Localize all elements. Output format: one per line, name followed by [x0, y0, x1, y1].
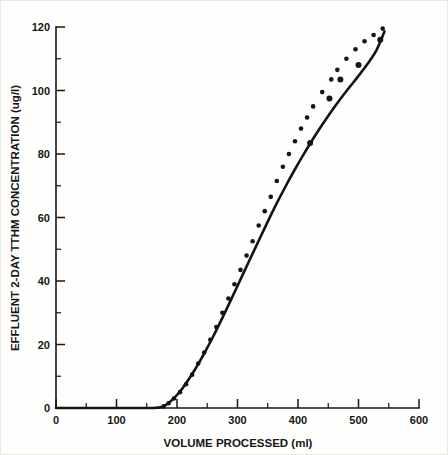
fitted-breakthrough-curve: [56, 31, 385, 408]
data-point: [377, 37, 383, 43]
data-point: [371, 33, 376, 38]
x-tick-label: 500: [349, 414, 367, 426]
data-point: [380, 26, 385, 31]
data-point: [329, 77, 334, 82]
x-axis-major-ticks: [56, 399, 419, 408]
data-point: [190, 372, 195, 377]
y-tick-label: 20: [38, 339, 50, 351]
x-tick-label: 100: [107, 414, 125, 426]
y-tick-label: 40: [38, 275, 50, 287]
chart-page: 120 100 80 60 40 20 0 0 100 200 300 400 …: [0, 0, 448, 455]
x-tick-label: 0: [53, 414, 59, 426]
data-point: [307, 140, 313, 146]
data-point: [202, 350, 207, 355]
data-point: [220, 310, 225, 315]
data-point: [262, 209, 267, 214]
data-point: [244, 253, 249, 258]
data-point: [196, 361, 201, 366]
data-point: [281, 164, 286, 169]
x-axis-title: VOLUME PROCESSED (ml): [164, 437, 313, 449]
y-tick-label: 100: [32, 85, 50, 97]
data-point: [326, 95, 332, 101]
tthm-breakthrough-chart: 120 100 80 60 40 20 0 0 100 200 300 400 …: [0, 0, 448, 455]
x-tick-label: 400: [289, 414, 307, 426]
x-tick-label: 200: [168, 414, 186, 426]
data-point: [311, 104, 316, 109]
data-point: [238, 268, 243, 273]
plot-data-layer: [56, 26, 385, 408]
data-point: [184, 382, 189, 387]
y-axis-tick-labels: 120 100 80 60 40 20 0: [32, 21, 50, 414]
data-point: [232, 282, 237, 287]
y-tick-label: 60: [38, 212, 50, 224]
y-tick-label: 120: [32, 21, 50, 33]
data-point: [299, 126, 304, 131]
data-point: [166, 401, 171, 406]
y-tick-label: 80: [38, 148, 50, 160]
y-axis-major-ticks: [56, 27, 65, 408]
data-point: [305, 115, 310, 120]
x-axis-tick-labels: 0 100 200 300 400 500 600: [53, 414, 428, 426]
data-point: [335, 68, 340, 73]
data-point: [362, 39, 367, 44]
data-point: [208, 337, 213, 342]
data-point: [275, 179, 280, 184]
x-tick-label: 600: [410, 414, 428, 426]
data-point: [353, 47, 358, 52]
data-point: [172, 396, 177, 401]
data-point: [344, 56, 349, 61]
data-point: [287, 152, 292, 157]
data-point: [256, 223, 261, 228]
data-point: [214, 325, 219, 330]
data-point: [320, 90, 325, 95]
data-point: [250, 239, 255, 244]
data-point: [178, 390, 183, 395]
data-point: [337, 76, 343, 82]
y-tick-label: 0: [44, 402, 50, 414]
data-point: [293, 139, 298, 144]
data-point: [268, 195, 273, 200]
y-axis-title: EFFLUENT 2-DAY TTHM CONCENTRATION (ug/l): [9, 85, 21, 351]
data-point: [226, 296, 231, 301]
data-point: [356, 62, 362, 68]
x-tick-label: 300: [228, 414, 246, 426]
data-point: [161, 404, 166, 409]
